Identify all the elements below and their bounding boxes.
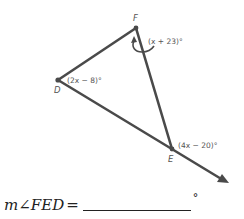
answer-row: m∠FED = ° xyxy=(4,192,198,214)
segment-df xyxy=(58,28,136,80)
answer-blank[interactable] xyxy=(83,196,191,211)
angle-label-d: (2x − 8)° xyxy=(67,76,102,85)
equals-sign: = xyxy=(66,196,79,214)
arc-arrowhead-icon xyxy=(131,36,137,43)
question-label: m∠FED xyxy=(4,196,64,214)
angle-label-e: (4x − 20)° xyxy=(178,141,218,150)
triangle-diagram: F D E (x + 23)° (2x − 8)° (4x − 20)° xyxy=(0,0,244,219)
vertex-label-e: E xyxy=(168,154,174,164)
vertex-dot-d xyxy=(55,77,60,82)
vertex-label-d: D xyxy=(54,85,61,95)
degree-symbol: ° xyxy=(193,192,199,205)
vertex-label-f: F xyxy=(133,13,138,23)
angle-label-f: (x + 23)° xyxy=(148,37,183,46)
vertex-dot-e xyxy=(170,147,175,152)
ray-de xyxy=(58,80,223,180)
vertex-dot-f xyxy=(134,26,139,31)
